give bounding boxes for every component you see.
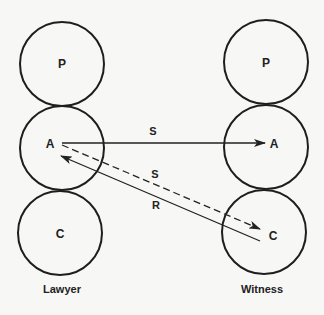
witness-adult-label: A [270,137,279,151]
lawyer-parent-label: P [58,57,66,71]
lawyer-child-node: C [18,191,102,275]
lawyer-caption: Lawyer [43,283,82,295]
transactional-diagram: P A C Lawyer P A C Witness S [0,0,324,315]
witness-parent-node: P [224,20,308,104]
witness-adult-circle [224,105,308,189]
dashed-arrow-icon [62,145,260,229]
edge-stimulus-adult-to-adult: S [62,125,265,143]
witness-adult-node: A [224,105,308,189]
lawyer-adult-label: A [46,137,55,151]
witness-child-circle [222,190,306,274]
edge-stimulus-adult-to-child: S [62,145,260,229]
witness-caption: Witness [241,283,283,295]
edge-label-s1: S [149,125,156,137]
lawyer-adult-circle [20,106,104,190]
witness-parent-label: P [262,56,270,70]
edges: S S R [61,125,265,241]
witness-child-label: C [269,229,278,243]
lawyer-parent-node: P [20,22,104,106]
lawyer-child-label: C [56,227,65,241]
witness-column: P A C Witness [222,20,308,295]
edge-label-r: R [152,199,160,211]
lawyer-column: P A C Lawyer [18,22,104,295]
lawyer-adult-node: A [20,106,104,190]
edge-label-s2: S [151,168,158,180]
witness-child-node: C [222,190,306,274]
